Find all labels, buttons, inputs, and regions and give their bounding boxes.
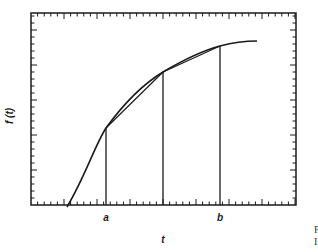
- cropped-caption-text: F: [314, 224, 318, 235]
- figure-canvas: a b t f (t) F I: [0, 0, 318, 252]
- chord-right: [163, 46, 220, 72]
- label-a: a: [103, 212, 109, 223]
- chord-left: [106, 72, 163, 128]
- label-b: b: [217, 212, 223, 223]
- x-axis-label: t: [161, 234, 165, 245]
- cropped-caption-text: I: [314, 236, 317, 247]
- function-curve: [67, 41, 257, 207]
- y-axis-label: f (t): [4, 107, 15, 124]
